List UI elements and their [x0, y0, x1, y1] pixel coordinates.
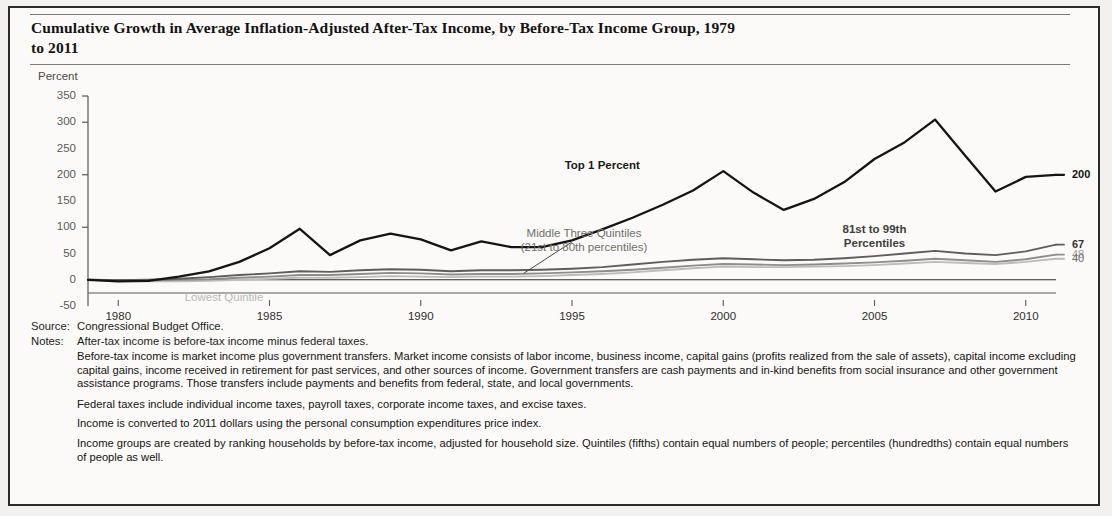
title-rule-bottom: [30, 64, 1070, 65]
end-label-lowest-quintile: 40: [1072, 252, 1084, 264]
source-value: Congressional Budget Office.: [77, 320, 1077, 332]
end-label-top-1-percent: 200: [1072, 168, 1090, 180]
annotation-middle-line2: (21st to 80th percentiles): [484, 241, 684, 255]
annotation-pct81-line2: Percentiles: [819, 237, 931, 251]
notes-first-line: After-tax income is before-tax income mi…: [77, 335, 1077, 347]
figure-footer: Source: Congressional Budget Office. Not…: [31, 320, 1077, 471]
y-tick-7: 0: [42, 273, 76, 285]
note-paragraph-4: Income groups are created by ranking hou…: [77, 437, 1077, 464]
y-tick-6: 50: [42, 247, 76, 259]
note-paragraph-1: Before-tax income is market income plus …: [77, 350, 1077, 391]
y-tick-3: 200: [42, 168, 76, 180]
title-rule-top: [30, 14, 1070, 15]
annotation-pct81-line1: 81st to 99th: [819, 223, 931, 237]
series-line-2: [88, 255, 1056, 281]
note-paragraph-3: Income is converted to 2011 dollars usin…: [77, 417, 1077, 431]
line-chart-svg: [28, 88, 1088, 313]
y-tick-4: 150: [42, 194, 76, 206]
note-paragraph-2: Federal taxes include individual income …: [77, 398, 1077, 412]
notes-row: Notes: After-tax income is before-tax in…: [31, 335, 1077, 347]
y-tick-2: 250: [42, 142, 76, 154]
notes-key: Notes:: [31, 335, 77, 347]
annotation-middle-line1: Middle Three Quintiles: [484, 227, 684, 241]
annotation-top-1-percent: Top 1 Percent: [542, 159, 662, 173]
annotation-lowest-quintile: Lowest Quintile: [159, 291, 289, 305]
source-row: Source: Congressional Budget Office.: [31, 320, 1077, 332]
annotation-middle-three-quintiles: Middle Three Quintiles (21st to 80th per…: [484, 227, 684, 254]
annotation-81st-to-99th: 81st to 99th Percentiles: [819, 223, 931, 250]
y-tick-0: 350: [42, 89, 76, 101]
source-key: Source:: [31, 320, 77, 332]
figure-page: Cumulative Growth in Average Inflation-A…: [0, 0, 1112, 516]
series-line-0: [88, 120, 1056, 282]
chart-plot-area: 350 300 250 200 150 100 50 0 -50 1980 19…: [28, 88, 1088, 313]
y-tick-1: 300: [42, 115, 76, 127]
page-title: Cumulative Growth in Average Inflation-A…: [31, 18, 751, 58]
y-tick-8: -50: [42, 299, 76, 311]
y-tick-5: 100: [42, 220, 76, 232]
y-axis-unit-label: Percent: [38, 70, 78, 82]
